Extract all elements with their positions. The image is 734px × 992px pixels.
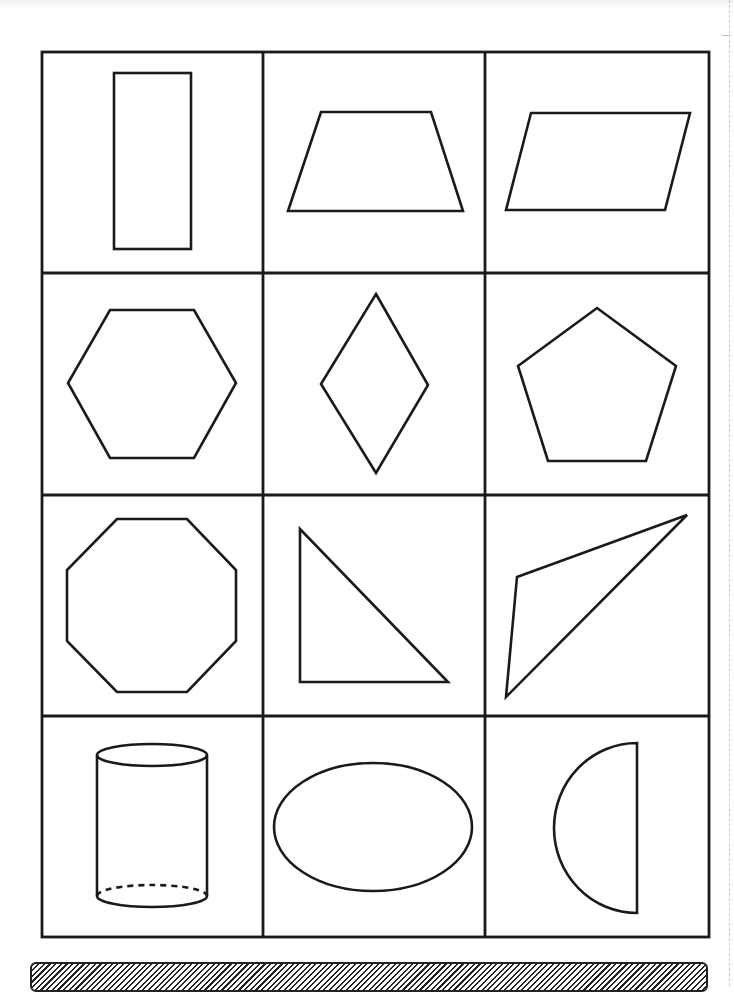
grid-lines xyxy=(42,52,709,937)
parallelogram-icon xyxy=(506,113,690,210)
cell-pentagon xyxy=(518,308,676,461)
cylinder-top xyxy=(97,744,207,766)
right-triangle-icon xyxy=(300,529,448,682)
semicircle-icon xyxy=(554,743,637,913)
cell-hexagon xyxy=(68,310,236,458)
cylinder-bottom-back xyxy=(97,885,207,896)
cell-right-triangle xyxy=(300,529,448,682)
cell-oval xyxy=(274,763,472,891)
cylinder-bottom-front xyxy=(97,896,207,907)
scalene-triangle-icon xyxy=(506,515,687,697)
rhombus-icon xyxy=(321,294,428,473)
cell-rectangle xyxy=(114,73,191,249)
cell-semicircle xyxy=(554,743,637,913)
cell-trapezoid xyxy=(288,112,463,211)
cell-scalene-triangle xyxy=(506,515,687,697)
cell-parallelogram xyxy=(506,113,690,210)
trapezoid-icon xyxy=(288,112,463,211)
oval-icon xyxy=(274,763,472,891)
rectangle-icon xyxy=(114,73,191,249)
hatched-footer-bar xyxy=(30,962,708,992)
octagon-icon xyxy=(67,519,236,692)
cylinder-icon xyxy=(97,744,207,907)
cell-octagon xyxy=(67,519,236,692)
pentagon-icon xyxy=(518,308,676,461)
cell-rhombus xyxy=(321,294,428,473)
hexagon-icon xyxy=(68,310,236,458)
